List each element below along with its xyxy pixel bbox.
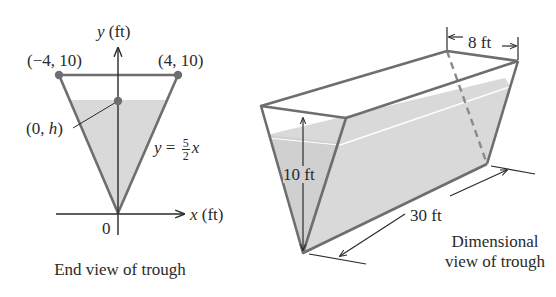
dimensional-view [261,27,535,264]
point-h-var: h [49,119,58,138]
length-ext-front [309,254,366,264]
point-h-dot [114,97,122,105]
equation-eq: = [166,138,176,157]
x-axis-unit: (ft) [202,205,224,224]
equation-var: x [192,138,200,157]
dimensional-view-caption: Dimensional view of trough [420,232,556,273]
caption-line-2: view of trough [420,252,556,272]
fraction-den: 2 [182,150,190,162]
y-axis-unit: (ft) [109,22,131,41]
back-top-edge [447,51,518,61]
end-view-caption: End view of trough [30,260,210,280]
point-left-label: (−4, 10) [27,52,82,69]
length-ext-back [491,166,535,174]
point-h-suffix: ) [57,119,63,138]
equation-label: y = 52x [154,137,199,162]
point-right-dot [174,71,182,79]
point-right-label: (4, 10) [158,52,203,69]
caption-line-1: Dimensional [420,232,556,252]
equation-fraction: 52 [182,137,190,162]
width-label: 8 ft [468,34,491,51]
length-label: 30 ft [410,207,442,224]
equation-lhs: y [154,138,162,157]
point-h-label: (0, h) [26,120,63,137]
top-left-long-edge [261,51,447,106]
x-axis-var: x [190,205,198,224]
point-left-dot [55,71,63,79]
height-label: 10 ft [283,166,315,183]
origin-label: 0 [102,220,111,237]
x-axis-label: x (ft) [190,206,224,223]
point-h-prefix: (0, [26,119,49,138]
y-axis-label: y (ft) [97,23,131,40]
y-axis-var: y [97,22,105,41]
